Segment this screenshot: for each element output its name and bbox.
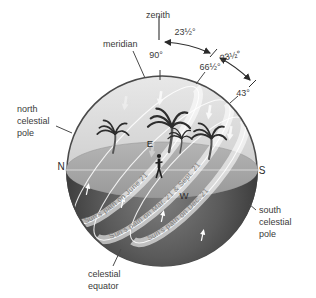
meridian-label: meridian (103, 39, 138, 49)
meridian-leader-line (133, 51, 145, 78)
zenith-label: zenith (146, 10, 170, 20)
compass-north-label: N (57, 161, 64, 172)
north-celestial-pole-label: north celestial pole (17, 104, 52, 138)
angle-66-label: 66½° (199, 62, 221, 72)
celestial-sphere-figure: Sun's path on June 21 Sun's path on Mar.… (0, 0, 316, 298)
angle-arc-upper (165, 42, 210, 53)
angle-66-leader-line (196, 72, 205, 84)
obliquity-lower-label: 23½° (219, 49, 242, 64)
arc-tick (249, 80, 256, 87)
compass-south-label: S (259, 165, 266, 176)
arc-tick (210, 49, 217, 57)
compass-east-label: E (147, 138, 153, 149)
angle-43-label: 43° (236, 88, 250, 98)
south-celestial-pole-label: south celestial pole (259, 205, 294, 239)
angle-90-label: 90° (149, 50, 163, 60)
obliquity-upper-label: 23½° (174, 27, 196, 37)
compass-west-label: W (180, 190, 189, 201)
celestial-sphere-diagram: Sun's path on June 21 Sun's path on Mar.… (0, 0, 316, 298)
north-pole-leader-line (56, 126, 72, 133)
celestial-equator-label: celestial equator (88, 269, 123, 291)
